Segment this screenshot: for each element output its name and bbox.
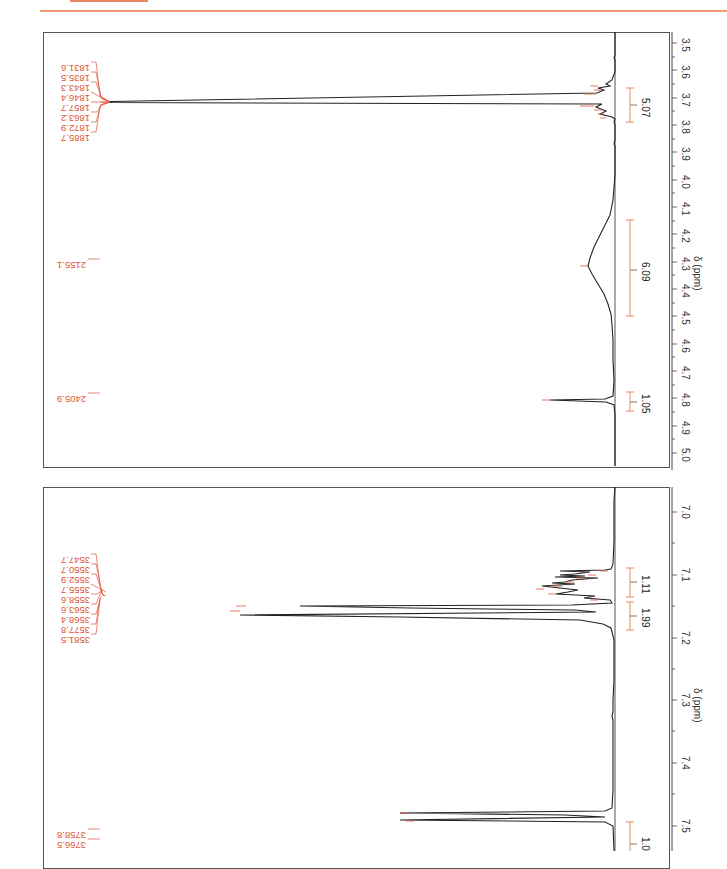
peak-label: 3766.5	[57, 840, 86, 851]
tick-label: 4.1	[680, 202, 691, 216]
integral-1-99: 1.99	[640, 608, 651, 628]
top-spectrum-trace	[110, 32, 615, 466]
integral-1-11: 1.11	[640, 575, 651, 594]
bottom-spectrum-trace	[240, 487, 615, 851]
peak-label: 1831.6	[61, 63, 90, 74]
tick-label: 7.4	[680, 756, 691, 770]
integral-1-00: 1.00	[640, 837, 651, 851]
tick-label: 4.0	[680, 175, 691, 189]
bottom-panel: 1.11 1.99 1.00 7.0 7.1 7.2 7.3 7.4 7.5 δ…	[57, 487, 703, 851]
tick-label: 3.9	[680, 147, 691, 161]
peak-label: 3581.5	[61, 635, 90, 646]
tick-label: 4.5	[680, 311, 691, 325]
tick-label: 7.3	[680, 693, 691, 707]
tick-label: 3.8	[680, 120, 691, 134]
peak-label: 3568.4	[61, 615, 90, 626]
tick-label: 3.7	[680, 93, 691, 107]
peak-label: 2405.9	[57, 394, 86, 405]
peak-label: 3555.7	[61, 585, 90, 596]
peak-label: 1885.7	[61, 133, 90, 144]
peak-label: 1835.5	[61, 73, 90, 84]
integral-1-05: 1.05	[640, 394, 651, 414]
peak-label: 3547.7	[61, 555, 90, 566]
tick-label: 5.0	[680, 448, 691, 462]
peak-label: 3552.9	[61, 575, 90, 586]
x-axis-label: δ (ppm)	[692, 688, 703, 722]
peak-label: 1863.2	[61, 113, 90, 124]
peak-label: 1843.3	[61, 83, 90, 94]
tick-label: 4.8	[680, 393, 691, 407]
tick-label: 4.4	[680, 284, 691, 298]
tick-label: 4.6	[680, 339, 691, 353]
tick-label: 3.5	[680, 38, 691, 52]
peak-label: 3558.6	[61, 595, 90, 606]
peak-label: 3577.8	[61, 625, 90, 636]
peak-label: 1857.7	[61, 103, 90, 114]
peak-label: 3758.8	[57, 830, 86, 841]
peak-label: 2155.1	[57, 260, 86, 271]
tick-label: 3.6	[680, 65, 691, 79]
tick-label: 4.3	[680, 257, 691, 271]
tick-label: 4.7	[680, 366, 691, 380]
top-panel: 5.07 6.09 1.05 3.5 3.6 3.7 3.8	[57, 32, 703, 470]
x-axis-label: δ (ppm)	[692, 256, 703, 290]
peak-label: 3550.7	[61, 565, 90, 576]
tick-label: 7.5	[680, 819, 691, 833]
tick-label: 4.9	[680, 421, 691, 435]
peak-label: 1872.9	[61, 123, 90, 134]
integral-6-09: 6.09	[640, 262, 651, 282]
tick-label: 4.2	[680, 229, 691, 243]
peak-label: 1846.4	[61, 93, 90, 104]
tick-label: 7.2	[680, 631, 691, 645]
tick-label: 7.1	[680, 568, 691, 582]
peak-label: 3563.6	[61, 605, 90, 616]
tick-label: 7.0	[680, 505, 691, 519]
integral-5-07: 5.07	[640, 98, 651, 118]
